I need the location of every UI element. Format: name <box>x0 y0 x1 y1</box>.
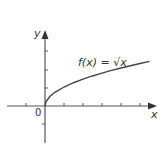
y-axis-arrow-icon <box>42 30 49 39</box>
x-axis-label: x <box>150 108 158 121</box>
sqrt-function-graph: f(x) = √x y x 0 <box>0 0 168 147</box>
y-axis-label: y <box>33 27 41 40</box>
origin-label: 0 <box>35 107 41 118</box>
function-label: f(x) = √x <box>78 56 127 69</box>
